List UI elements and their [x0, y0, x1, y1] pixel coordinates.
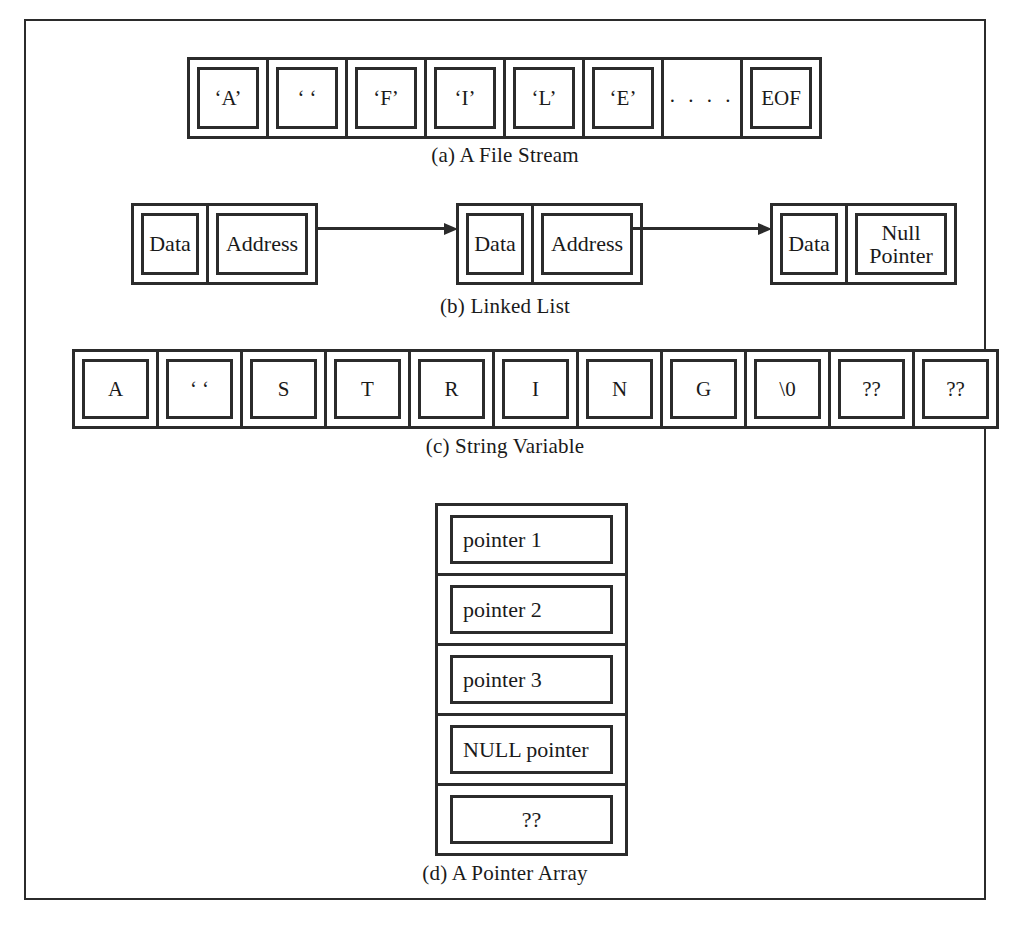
node-data-cell: Data — [131, 203, 209, 285]
pointer-array-cell-value: pointer 1 — [450, 515, 613, 564]
node-data-cell: Data — [770, 203, 848, 285]
node-address-cell: Address — [531, 203, 643, 285]
linked-list-panel: Data Address Data Address Data — [26, 203, 984, 291]
string-cell-value: T — [334, 359, 401, 419]
string-cell-value: A — [82, 359, 149, 419]
pointer-array-cell-value: pointer 3 — [450, 655, 613, 704]
caption-linked-list: (b) Linked List — [26, 294, 984, 319]
string-cell-value: ?? — [922, 359, 989, 419]
node-data-label: Data — [466, 213, 524, 275]
file-stream-cell-value: ‘A’ — [197, 67, 259, 129]
linked-list-node: Data Address — [456, 203, 640, 285]
file-stream-cell: ‘L’ — [503, 57, 585, 139]
ellipsis-text: . . . . — [670, 83, 735, 114]
string-cell-value: \0 — [754, 359, 821, 419]
string-cell-value: N — [586, 359, 653, 419]
arrow-shaft — [632, 227, 759, 230]
node-data-label: Data — [780, 213, 838, 275]
link-arrow-icon — [632, 223, 772, 235]
string-variable-strip: A ‘ ‘ S T R I N G \0 ?? ?? — [72, 349, 996, 429]
node-null-pointer-label: Null Pointer — [855, 213, 947, 275]
string-cell-value: ?? — [838, 359, 905, 419]
node-address-label: Address — [541, 213, 633, 275]
caption-pointer-array: (d) A Pointer Array — [26, 861, 984, 886]
pointer-array-cell-value: ?? — [450, 795, 613, 844]
linked-list-node: Data Address — [131, 203, 315, 285]
pointer-array-null-cell: NULL pointer — [435, 713, 628, 786]
file-stream-cell: EOF — [740, 57, 822, 139]
string-cell: N — [576, 349, 663, 429]
string-cell-value: S — [250, 359, 317, 419]
string-null-terminator-cell: \0 — [744, 349, 831, 429]
node-data-label: Data — [141, 213, 199, 275]
string-cell-value: R — [418, 359, 485, 419]
file-stream-cell: ‘A’ — [187, 57, 269, 139]
string-cell-value: ‘ ‘ — [166, 359, 233, 419]
node-null-pointer-cell: Null Pointer — [845, 203, 957, 285]
file-stream-cell-value: ‘F’ — [355, 67, 417, 129]
link-arrow-icon — [318, 223, 458, 235]
pointer-array-stack: pointer 1 pointer 2 pointer 3 NULL point… — [435, 503, 628, 853]
string-cell: R — [408, 349, 495, 429]
file-stream-cell-value: ‘L’ — [513, 67, 575, 129]
pointer-array-cell-value: pointer 2 — [450, 585, 613, 634]
string-cell-value: G — [670, 359, 737, 419]
arrow-shaft — [318, 227, 445, 230]
string-cell: A — [72, 349, 159, 429]
node-data-cell: Data — [456, 203, 534, 285]
string-cell-value: I — [502, 359, 569, 419]
node-address-label: Address — [216, 213, 308, 275]
string-cell: ?? — [912, 349, 999, 429]
file-stream-cell-value: ‘I’ — [434, 67, 496, 129]
file-stream-cell: ‘E’ — [582, 57, 664, 139]
string-cell: ?? — [828, 349, 915, 429]
string-cell: S — [240, 349, 327, 429]
string-cell: T — [324, 349, 411, 429]
file-stream-strip: ‘A’ ‘ ‘ ‘F’ ‘I’ ‘L’ ‘E’ . . . . EOF — [187, 57, 819, 139]
file-stream-cell-value: ‘ ‘ — [276, 67, 338, 129]
caption-file-stream: (a) A File Stream — [26, 143, 984, 168]
pointer-array-cell: pointer 1 — [435, 503, 628, 576]
pointer-array-cell: pointer 3 — [435, 643, 628, 716]
pointer-array-cell: pointer 2 — [435, 573, 628, 646]
pointer-array-cell-value: NULL pointer — [450, 725, 613, 774]
file-stream-cell: ‘I’ — [424, 57, 506, 139]
string-cell: ‘ ‘ — [156, 349, 243, 429]
file-stream-cell: ‘F’ — [345, 57, 427, 139]
file-stream-eof-value: EOF — [750, 67, 812, 129]
file-stream-ellipsis-cell: . . . . — [661, 57, 743, 139]
linked-list-node: Data Null Pointer — [770, 203, 954, 285]
pointer-array-cell: ?? — [435, 783, 628, 856]
string-cell: I — [492, 349, 579, 429]
node-address-cell: Address — [206, 203, 318, 285]
file-stream-cell-value: ‘E’ — [592, 67, 654, 129]
string-cell: G — [660, 349, 747, 429]
caption-string-variable: (c) String Variable — [26, 434, 984, 459]
file-stream-cell: ‘ ‘ — [266, 57, 348, 139]
figure-outer-frame: ‘A’ ‘ ‘ ‘F’ ‘I’ ‘L’ ‘E’ . . . . EOF (a) … — [24, 19, 986, 900]
